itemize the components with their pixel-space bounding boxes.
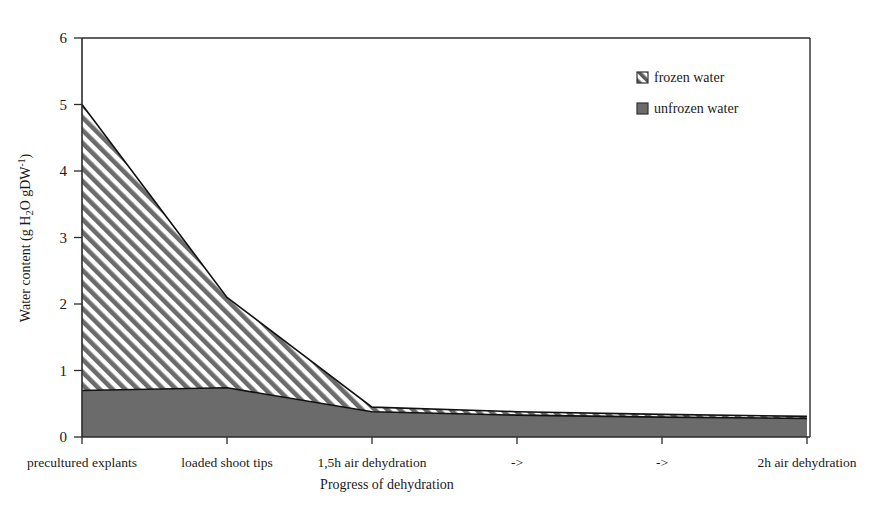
x-category-label-1: loaded shoot tips	[181, 455, 273, 470]
stacked-area-chart: 6 5 4 3 2 1 0 precultured explants loade…	[0, 0, 889, 515]
legend-label-unfrozen-water: unfrozen water	[654, 101, 739, 116]
y-axis-title-mid: O gDW	[18, 166, 33, 211]
x-category-label-4: ->	[656, 455, 668, 470]
y-tick-label-4: 4	[60, 163, 68, 179]
y-axis-title-suffix: )	[18, 154, 34, 159]
x-category-label-0: precultured explants	[27, 455, 137, 470]
y-tick-label-5: 5	[60, 97, 68, 113]
svg-text:Water content (g H2O gDW-1): Water content (g H2O gDW-1)	[17, 154, 35, 323]
x-axis-title: Progress of dehydration	[320, 477, 454, 492]
y-tick-label-1: 1	[60, 363, 68, 379]
y-axis-title-prefix: Water content (g H	[18, 216, 34, 323]
x-category-label-2: 1,5h air dehydration	[317, 455, 426, 470]
y-axis-title: Water content (g H2O gDW-1)	[17, 154, 35, 323]
chart-container: 6 5 4 3 2 1 0 precultured explants loade…	[0, 0, 889, 515]
legend-swatch-unfrozen-water	[637, 103, 648, 114]
legend-label-frozen-water: frozen water	[654, 70, 725, 85]
x-axis-ticks	[82, 437, 807, 444]
x-category-label-5: 2h air dehydration	[758, 455, 857, 470]
y-axis-ticks	[74, 38, 82, 437]
legend-swatch-frozen-water	[637, 72, 648, 83]
y-tick-label-2: 2	[60, 296, 68, 312]
y-tick-label-3: 3	[60, 230, 68, 246]
y-tick-label-6: 6	[60, 30, 68, 46]
x-category-label-3: ->	[511, 455, 523, 470]
y-tick-label-0: 0	[60, 429, 68, 445]
